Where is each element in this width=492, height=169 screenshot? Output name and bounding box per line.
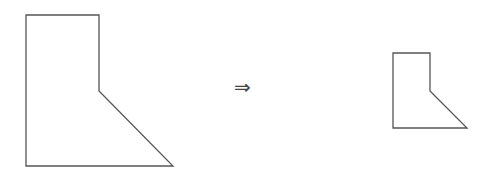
original-shape [26, 15, 173, 166]
scaled-shape [393, 53, 467, 128]
implies-arrow-icon: ⇒ [234, 77, 251, 97]
